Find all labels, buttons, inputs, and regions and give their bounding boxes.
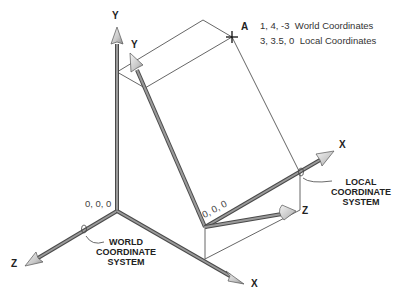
caption-line: COORDINATE (95, 247, 157, 257)
caption-line: WORLD (95, 237, 157, 247)
world-x-label: X (251, 279, 258, 289)
world-z-label: Z (11, 259, 17, 269)
point-a-label: A (241, 22, 248, 32)
world-y-label: Y (112, 11, 119, 21)
world-origin-label: 0, 0, 0 (85, 199, 111, 209)
local-z-arrowhead (279, 205, 296, 220)
world-system-caption: WORLD COORDINATE SYSTEM (95, 237, 157, 267)
caption-line: SYSTEM (95, 257, 157, 267)
world-coords-value: 1, 4, -3 (260, 20, 290, 31)
caption-line: LOCAL (330, 177, 392, 187)
world-coordinates-legend: 1, 4, -3 World Coordinates (260, 21, 373, 31)
local-coords-label: Local Coordinates (300, 35, 377, 46)
caption-line: SYSTEM (330, 197, 392, 207)
local-system-caption: LOCAL COORDINATE SYSTEM (330, 177, 392, 207)
world-y-arrowhead (111, 27, 123, 44)
local-x-label: X (339, 140, 346, 150)
local-z-label: Z (302, 206, 308, 216)
local-y-label: Y (131, 40, 138, 50)
caption-line: COORDINATE (330, 187, 392, 197)
world-z-arrowhead (25, 252, 43, 266)
local-coordinates-legend: 3, 3.5, 0 Local Coordinates (260, 36, 376, 46)
local-x-arrowhead (316, 151, 334, 166)
world-coords-label: World Coordinates (295, 20, 374, 31)
point-a-marker (226, 31, 238, 43)
local-y-arrowhead (130, 53, 143, 72)
local-coords-value: 3, 3.5, 0 (260, 35, 294, 46)
